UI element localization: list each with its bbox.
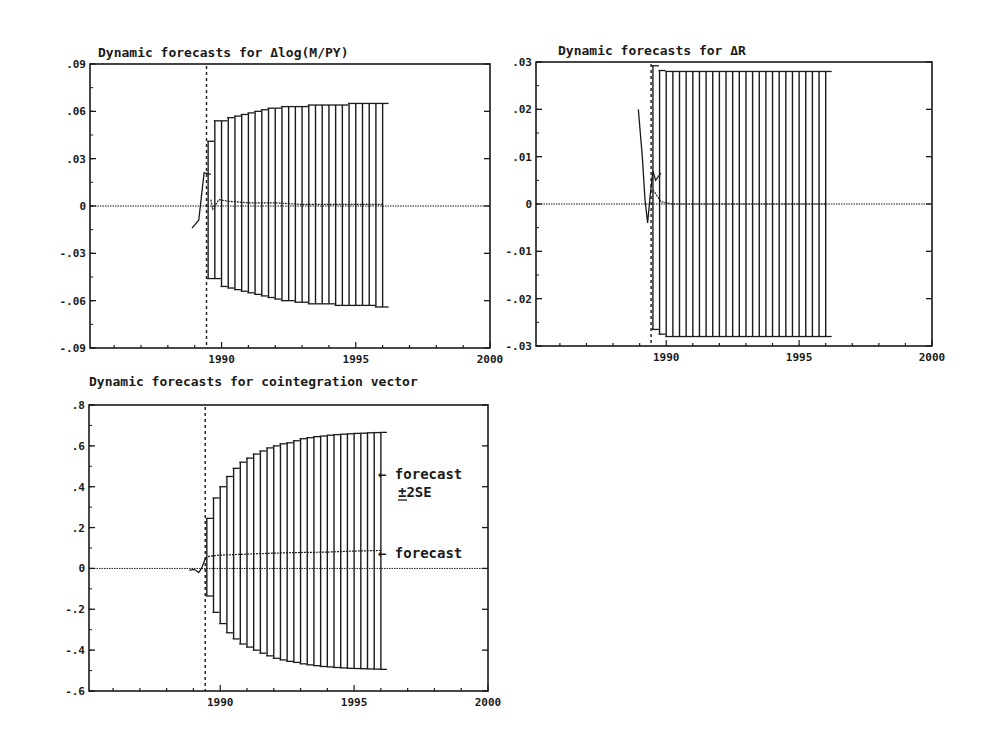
x-tick-label: 1995	[786, 351, 813, 364]
y-tick-label: .4	[72, 481, 86, 494]
actual-line	[189, 558, 205, 572]
chart-title: Dynamic forecasts for cointegration vect…	[89, 374, 418, 389]
y-tick-label: -.4	[65, 644, 85, 657]
chart-cointegration-vector: Dynamic forecasts for cointegration vect…	[65, 374, 501, 709]
x-tick-label: 1995	[341, 696, 368, 709]
y-tick-label: .03	[512, 56, 532, 69]
y-tick-label: -.03	[60, 247, 87, 260]
chart-dlogmpy: Dynamic forecasts for Δlog(M/PY).09.06.0…	[60, 45, 504, 366]
y-tick-label: -.03	[506, 340, 533, 353]
x-tick-label: 2000	[477, 353, 504, 366]
actual-line	[638, 109, 661, 223]
y-tick-label: .03	[66, 153, 86, 166]
x-tick-label: 1990	[207, 696, 234, 709]
y-tick-label: -.6	[65, 685, 85, 698]
y-tick-label: .2	[72, 522, 85, 535]
y-tick-label: .02	[512, 103, 532, 116]
y-tick-label: 0	[78, 562, 85, 575]
annotation-label: ← forecast	[378, 545, 462, 561]
forecast-line	[211, 200, 383, 209]
y-tick-label: -.01	[506, 245, 533, 258]
y-tick-label: .01	[512, 151, 532, 164]
forecast-charts-canvas: Dynamic forecasts for Δlog(M/PY).09.06.0…	[0, 0, 982, 733]
chart-title: Dynamic forecasts for Δlog(M/PY)	[98, 45, 348, 60]
y-tick-label: 0	[79, 200, 86, 213]
x-tick-label: 1995	[343, 353, 370, 366]
annotation-label: ← forecast	[378, 466, 462, 482]
chart-title: Dynamic forecasts for ΔR	[558, 43, 746, 58]
annotation-label: ±2SE	[398, 484, 432, 500]
x-tick-label: 1990	[653, 351, 680, 364]
y-tick-label: .09	[66, 58, 86, 71]
y-tick-label: -.02	[506, 293, 533, 306]
x-tick-label: 2000	[919, 351, 946, 364]
y-tick-label: -.09	[60, 342, 87, 355]
x-tick-label: 2000	[475, 696, 502, 709]
y-tick-label: -.06	[60, 295, 87, 308]
y-tick-label: .8	[72, 399, 85, 412]
y-tick-label: 0	[525, 198, 532, 211]
y-tick-label: .6	[72, 440, 86, 453]
chart-dr: Dynamic forecasts for ΔR.03.02.010-.01-.…	[506, 43, 946, 364]
y-tick-label: .06	[66, 105, 86, 118]
y-tick-label: -.2	[65, 603, 85, 616]
x-tick-label: 1990	[208, 353, 235, 366]
